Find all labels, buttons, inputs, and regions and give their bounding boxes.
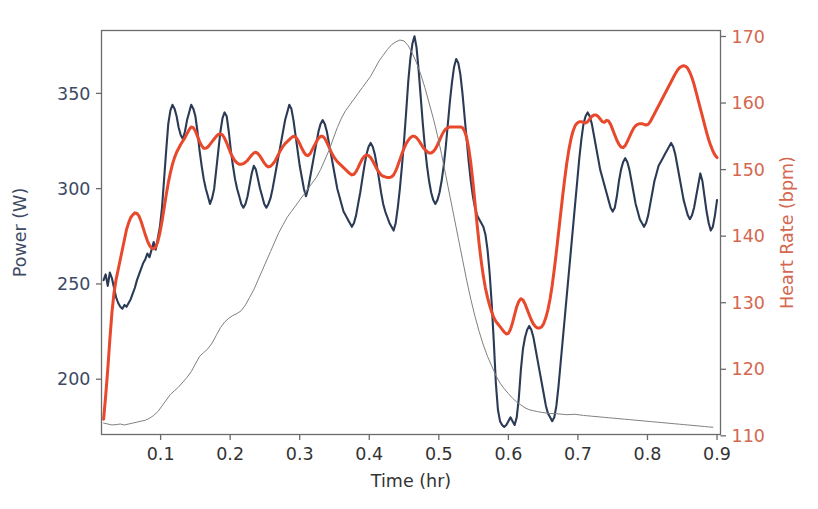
y-tick-label-right: 140	[732, 226, 765, 246]
x-tick-label: 0.3	[286, 444, 314, 464]
x-tick-label: 0.5	[425, 444, 453, 464]
y-tick-label-left: 250	[57, 274, 90, 294]
x-tick-label: 0.9	[703, 444, 731, 464]
y-tick-label-right: 120	[732, 359, 765, 379]
y-tick-label-left: 300	[57, 179, 90, 199]
y-tick-label-right: 160	[732, 93, 765, 113]
y-tick-label-right: 130	[732, 293, 765, 313]
y-axis-title-right: Heart Rate (bpm)	[777, 156, 797, 309]
x-tick-label: 0.8	[634, 444, 662, 464]
y-tick-label-left: 350	[57, 84, 90, 104]
y-tick-label-right: 150	[732, 160, 765, 180]
y-tick-label-right: 110	[732, 426, 765, 446]
y-axis-title-left: Power (W)	[10, 188, 30, 277]
chart-canvas: 0.10.20.30.40.50.60.70.80.92002503003501…	[0, 0, 818, 509]
x-tick-label: 0.6	[494, 444, 522, 464]
x-tick-label: 0.4	[355, 444, 383, 464]
x-tick-label: 0.1	[147, 444, 175, 464]
chart-figure: 0.10.20.30.40.50.60.70.80.92002503003501…	[0, 0, 818, 509]
y-tick-label-left: 200	[57, 369, 90, 389]
x-tick-label: 0.7	[564, 444, 592, 464]
x-tick-label: 0.2	[216, 444, 244, 464]
y-tick-label-right: 170	[732, 27, 765, 47]
x-axis-title: Time (hr)	[370, 471, 451, 491]
